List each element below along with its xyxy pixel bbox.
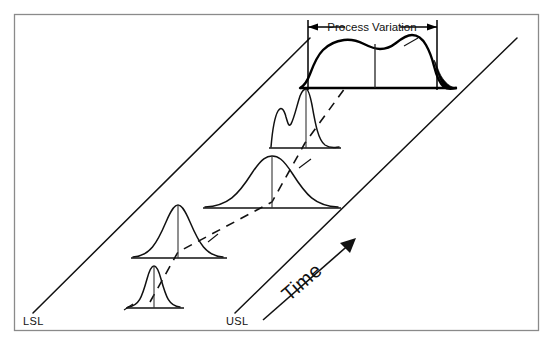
- process-variation-diagram: Process Variation Time LSL USL: [0, 0, 553, 345]
- diagram-frame: [15, 15, 539, 331]
- lsl-label: LSL: [23, 315, 44, 327]
- usl-label: USL: [226, 315, 249, 327]
- process-variation-label: Process Variation: [327, 21, 416, 33]
- diagram-canvas: Process Variation Time LSL USL: [0, 0, 553, 345]
